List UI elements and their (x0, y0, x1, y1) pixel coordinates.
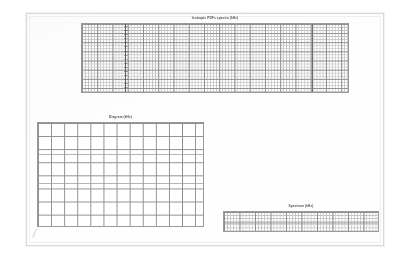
grid-area-large (37, 122, 204, 227)
chart-title-top: Isotropic PDFs spectra (kHz) (81, 16, 349, 20)
scanned-page-canvas: Isotropic PDFs spectra (kHz) 3.0 2.8 2.6… (0, 0, 408, 257)
chart-panel-large[interactable]: Diagram (kHz) (37, 122, 204, 227)
paper-sheet: Isotropic PDFs spectra (kHz) 3.0 2.8 2.6… (26, 13, 384, 246)
secondary-vertical-rule-top (312, 24, 313, 92)
chart-title-large: Diagram (kHz) (37, 115, 204, 119)
chart-panel-bottom[interactable]: Spectrum (kHz) (223, 211, 379, 232)
axis-tick-labels-top: 3.0 2.8 2.6 2.4 2.2 2.0 1.8 1.6 1.4 1.2 … (119, 26, 134, 90)
grid-major-lines-bottom (224, 212, 378, 231)
grid-major-lines-large (38, 123, 203, 226)
chart-panel-top[interactable]: Isotropic PDFs spectra (kHz) 3.0 2.8 2.6… (81, 23, 349, 93)
axis-tick-label: 1.8 (124, 51, 127, 54)
value-axis-top: 3.0 2.8 2.6 2.4 2.2 2.0 1.8 1.6 1.4 1.2 … (125, 24, 126, 92)
grid-area-top: 3.0 2.8 2.6 2.4 2.2 2.0 1.8 1.6 1.4 1.2 … (81, 23, 349, 93)
axis-tick-label: 1.6 (124, 55, 127, 58)
axis-tick-label: 2.0 (124, 46, 127, 49)
axis-tick-label: 0.0 (124, 87, 127, 90)
grid-area-bottom (223, 211, 379, 232)
chart-title-bottom: Spectrum (kHz) (223, 204, 379, 208)
faint-trace-rule (38, 154, 203, 155)
faint-trace-rule (38, 183, 203, 184)
corner-fold-mark (32, 229, 46, 238)
grid-minor-lines-large (38, 123, 203, 226)
grid-minor-lines-bottom (224, 212, 378, 231)
axis-tick-label: 1.4 (124, 59, 127, 62)
